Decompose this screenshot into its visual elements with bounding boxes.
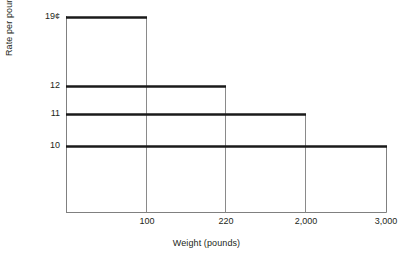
y-axis-title: Rate per pound (cents) [4,0,14,56]
x-axis-title: Weight (pounds) [0,238,413,248]
y-tick-label-11: 11 [22,108,60,118]
x-tick-label-2000: 2,000 [276,216,336,226]
step-chart: 19¢ 12 11 10 100 220 2,000 3,000 Rate pe… [0,0,413,264]
y-tick-label-10: 10 [22,140,60,150]
y-tick-label-12: 12 [22,80,60,90]
x-tick-label-3000: 3,000 [356,216,413,226]
x-tick-label-220: 220 [196,216,256,226]
y-tick-label-19: 19¢ [22,11,60,21]
x-tick-label-100: 100 [117,216,177,226]
